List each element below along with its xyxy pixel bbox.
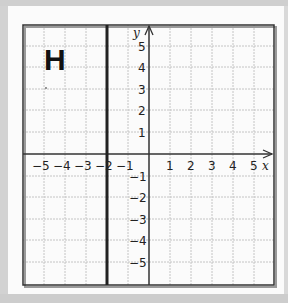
y-tick: 3 <box>138 83 146 97</box>
x-tick: 4 <box>229 159 237 173</box>
y-tick: 2 <box>138 104 146 118</box>
x-tick: 2 <box>187 159 195 173</box>
y-tick: −4 <box>129 234 147 248</box>
graph-letter-label: H <box>44 43 66 76</box>
stray-dot <box>45 87 47 89</box>
x-tick: −3 <box>74 159 92 173</box>
y-tick: 1 <box>138 126 146 140</box>
x-tick: −5 <box>32 159 50 173</box>
y-tick: −5 <box>129 256 147 270</box>
x-tick: 3 <box>208 159 216 173</box>
y-tick: −1 <box>129 170 147 184</box>
y-tick: −2 <box>129 191 147 205</box>
x-tick: 1 <box>166 159 174 173</box>
x-tick: −4 <box>53 159 71 173</box>
x-tick: −2 <box>95 159 113 173</box>
coordinate-graph: y x −5 −4 −3 −2 −1 1 2 3 4 5 5 4 3 2 1 −… <box>0 0 288 303</box>
y-tick: 5 <box>138 40 146 54</box>
y-tick: −3 <box>129 213 147 227</box>
x-tick: 5 <box>250 159 258 173</box>
x-axis-label: x <box>262 159 269 173</box>
y-tick: 4 <box>138 61 146 75</box>
y-axis-label: y <box>132 26 140 40</box>
